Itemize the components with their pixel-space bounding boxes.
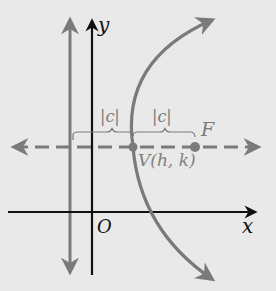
distance-left-label: |c| xyxy=(100,107,120,126)
x-axis-label: x xyxy=(242,214,253,238)
vertex-point xyxy=(129,143,138,152)
distance-right-label: |c| xyxy=(152,107,172,126)
brace-right xyxy=(133,128,195,137)
focus-label: F xyxy=(200,118,215,140)
y-axis-label: y xyxy=(97,13,110,37)
vertex-label: V(h, k) xyxy=(138,150,196,170)
parabola-diagram: y x O F V(h, k) |c| |c| xyxy=(0,0,276,291)
brace-left xyxy=(73,128,133,140)
origin-label: O xyxy=(97,216,112,237)
